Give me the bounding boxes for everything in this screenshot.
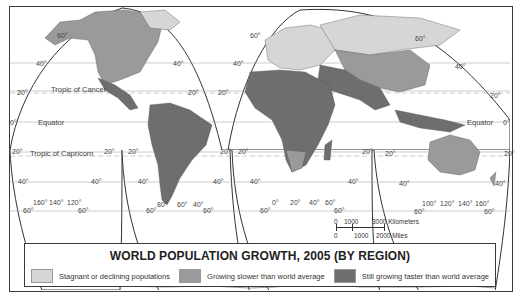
lat-label: 40° (495, 180, 506, 187)
lat-label: 60° (250, 32, 261, 39)
lat-label: 40° (173, 60, 184, 67)
lat-label: 60° (146, 207, 157, 214)
lat-label: 20° (17, 89, 28, 96)
lat-label: 40° (36, 60, 47, 67)
lon-label: 20° (290, 199, 301, 206)
lat-label: 20° (238, 148, 249, 155)
lat-label: 40° (250, 178, 261, 185)
lon-label: 140° (49, 199, 63, 206)
scale-bar: 0 1000 3000 Kilometers 0 1000 2000 Miles (332, 218, 442, 240)
lon-label: 60° (325, 199, 336, 206)
lat-label: 40° (455, 63, 466, 70)
legend-label: Growing slower than world average (207, 272, 325, 281)
lon-label: 100° (422, 200, 436, 207)
lat-label: 20° (12, 148, 23, 155)
scale-tick (352, 224, 353, 231)
lon-label: 40° (193, 201, 204, 208)
lat-label: 20° (490, 92, 501, 99)
lat-label: 20° (218, 89, 229, 96)
lat-label: 20° (504, 150, 515, 157)
lat-label: 60° (484, 208, 495, 215)
scale-mi-1000: 1000 (354, 232, 368, 239)
legend-swatch (179, 269, 201, 283)
legend-item-stagnant: Stagnant or declining populations (31, 269, 170, 283)
lat-label: 60° (415, 35, 426, 42)
lat-label: 0° (503, 119, 510, 126)
lat-label: 20° (128, 148, 139, 155)
lat-label: 40° (18, 178, 29, 185)
lat-label: 20° (220, 148, 231, 155)
equator-label-left: Equator (38, 119, 64, 127)
lat-label: 40° (91, 178, 102, 185)
lon-label: 140° (458, 200, 472, 207)
lat-label: 60° (23, 207, 34, 214)
scale-tick (336, 224, 337, 231)
legend-label: Stagnant or declining populations (59, 272, 170, 281)
lat-label: 60° (78, 207, 89, 214)
lat-label: 40° (213, 178, 224, 185)
scale-mi-zero: 0 (334, 232, 338, 239)
scale-tick (384, 224, 385, 231)
legend-swatch (334, 269, 356, 283)
lat-label: 20° (362, 148, 373, 155)
lon-label: 0° (272, 199, 279, 206)
lat-label: 40° (348, 178, 359, 185)
tropic-of-capricorn-label: Tropic of Capricorn (30, 150, 94, 158)
lon-label: 40° (309, 199, 320, 206)
lat-label: 20° (104, 148, 115, 155)
lon-label: 120° (67, 199, 81, 206)
legend-label: Still growing faster than world average (362, 272, 489, 281)
lat-label: 40° (233, 60, 244, 67)
legend-swatch (31, 269, 53, 283)
lat-label: 60° (203, 207, 214, 214)
lat-label: 60° (334, 207, 345, 214)
lat-label: 60° (57, 32, 68, 39)
lat-label: 20° (385, 150, 396, 157)
legend-item-slower: Growing slower than world average (179, 269, 325, 283)
lon-label: 120° (440, 200, 454, 207)
lat-label: 40° (138, 178, 149, 185)
scale-mi-2000: 2000 Miles (376, 232, 407, 239)
lat-label: 40° (399, 180, 410, 187)
equator-label-right: Equator (467, 119, 493, 127)
scale-line (336, 227, 384, 228)
lon-label: 160° (475, 200, 489, 207)
legend: WORLD POPULATION GROWTH, 2005 (BY REGION… (24, 243, 496, 287)
lat-label: 60° (260, 207, 271, 214)
tropic-of-cancer-label: Tropic of Cancer (51, 86, 106, 94)
scale-km-3000: 3000 Kilometers (372, 218, 419, 225)
lat-label: 0° (10, 119, 17, 126)
lat-label: 60° (414, 208, 425, 215)
lon-label: 80° (157, 201, 168, 208)
map-title: WORLD POPULATION GROWTH, 2005 (BY REGION… (25, 249, 495, 263)
lat-label: 20° (188, 89, 199, 96)
lon-label: 160° (33, 199, 47, 206)
lon-label: 60° (177, 201, 188, 208)
legend-item-faster: Still growing faster than world average (334, 269, 489, 283)
